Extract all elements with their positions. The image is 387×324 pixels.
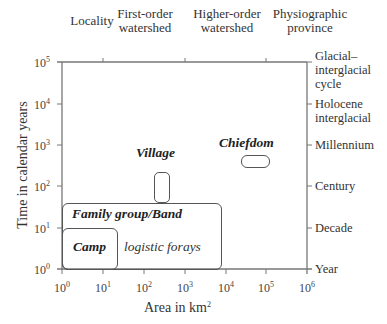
right-label-century: Century xyxy=(315,179,355,193)
y-tick-1e4: 104 xyxy=(20,97,50,113)
top-label-first-order-watershed: First-order watershed xyxy=(110,7,180,35)
right-label-millennium: Millennium xyxy=(315,138,374,152)
right-label-year: Year xyxy=(315,262,338,276)
label-camp: Camp xyxy=(73,239,106,255)
y-tick-1e2: 102 xyxy=(20,179,50,195)
right-label-holocene: Holocene interglacial xyxy=(315,97,371,125)
y-tick-1e1: 101 xyxy=(20,221,50,237)
y-tick-1e3: 103 xyxy=(20,138,50,154)
x-tick-1e0: 100 xyxy=(47,280,77,296)
label-chiefdom: Chiefdom xyxy=(219,135,274,151)
region-chiefdom xyxy=(241,155,270,168)
x-tick-1e4: 104 xyxy=(211,280,241,296)
x-tick-1e1: 101 xyxy=(88,280,118,296)
label-logistic-forays: logistic forays xyxy=(124,239,201,255)
right-label-decade: Decade xyxy=(315,221,352,235)
label-village: Village xyxy=(136,145,175,161)
region-village xyxy=(154,172,170,203)
y-tick-1e0: 100 xyxy=(20,262,50,278)
x-tick-1e6: 106 xyxy=(292,280,322,296)
y-tick-1e5: 105 xyxy=(20,55,50,71)
top-label-higher-order-watershed: Higher-order watershed xyxy=(187,7,267,35)
x-tick-1e2: 102 xyxy=(129,280,159,296)
label-family-band: Family group/Band xyxy=(72,206,182,222)
x-tick-1e3: 103 xyxy=(170,280,200,296)
x-tick-1e5: 105 xyxy=(251,280,281,296)
x-axis-label: Area in km2 xyxy=(144,300,211,316)
right-label-glacial-cycle: Glacial– interglacial cycle xyxy=(315,49,371,91)
top-label-physiographic-province: Physiographic province xyxy=(270,7,350,35)
